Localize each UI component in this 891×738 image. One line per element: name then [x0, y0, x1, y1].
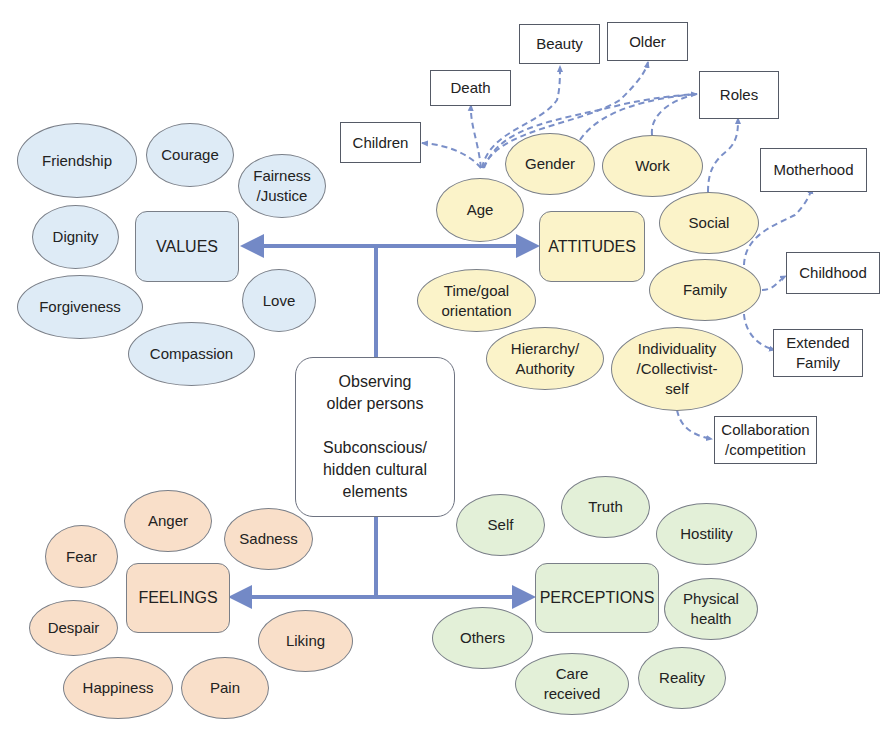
attitudes-hub: ATTITUDES: [539, 211, 645, 282]
subtopic-motherhood: Motherhood: [760, 148, 867, 192]
feeling-pain: Pain: [181, 657, 269, 719]
link-individuality-collaboration: [677, 410, 712, 439]
values-hub: VALUES: [135, 211, 239, 282]
subtopic-children: Children: [340, 122, 421, 163]
attitude-age: Age: [436, 178, 524, 242]
subtopic-roles: Roles: [699, 71, 779, 119]
feeling-despair: Despair: [29, 600, 118, 656]
perception-care-received: Care received: [515, 653, 629, 715]
perception-physical-health: Physical health: [664, 578, 758, 640]
perceptions-hub: PERCEPTIONS: [535, 563, 659, 633]
subtopic-older: Older: [607, 22, 688, 61]
perception-reality: Reality: [638, 647, 726, 709]
center-node: Observing older persons Subconscious/ hi…: [295, 357, 455, 517]
feelings-hub: FEELINGS: [126, 563, 230, 633]
feeling-happiness: Happiness: [63, 657, 173, 719]
value-dignity: Dignity: [32, 205, 119, 269]
value-courage: Courage: [146, 123, 234, 187]
attitude-individuality: Individuality /Collectivist- self: [611, 327, 743, 411]
subtopic-extended-family: Extended Family: [773, 329, 863, 377]
attitude-gender: Gender: [505, 133, 595, 195]
value-love: Love: [242, 269, 316, 332]
feeling-liking: Liking: [258, 610, 353, 672]
feeling-anger: Anger: [124, 490, 212, 552]
attitude-work: Work: [602, 135, 703, 197]
attitude-hierarchy: Hierarchy/ Authority: [486, 327, 604, 390]
subtopic-childhood: Childhood: [786, 252, 880, 294]
value-forgiveness: Forgiveness: [17, 275, 143, 339]
perception-truth: Truth: [561, 476, 650, 538]
value-friendship: Friendship: [17, 123, 137, 198]
link-family-childhood: [762, 276, 786, 290]
link-social-roles: [708, 118, 738, 192]
feeling-fear: Fear: [45, 525, 118, 588]
perception-self: Self: [456, 494, 545, 556]
attitude-time-goal: Time/goal orientation: [417, 269, 536, 332]
attitude-family: Family: [649, 259, 761, 321]
attitude-social: Social: [659, 192, 759, 254]
link-age-death: [471, 105, 481, 168]
subtopic-death: Death: [430, 70, 511, 106]
value-compassion: Compassion: [128, 322, 255, 386]
subtopic-collaboration: Collaboration /competition: [714, 416, 817, 464]
link-family-extended: [744, 314, 775, 350]
value-fairness-justice: Fairness /Justice: [238, 154, 326, 218]
feeling-sadness: Sadness: [224, 508, 313, 570]
subtopic-beauty: Beauty: [519, 24, 600, 64]
perception-hostility: Hostility: [656, 503, 757, 565]
link-age-children: [422, 143, 481, 168]
perception-others: Others: [432, 607, 533, 669]
